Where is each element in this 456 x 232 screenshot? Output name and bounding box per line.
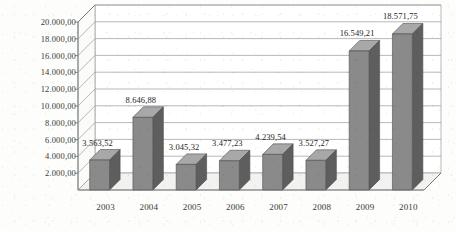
data-value-label: 8.646,88 xyxy=(126,95,157,105)
data-value-labels: 3.563,528.646,883.045,323.477,234.239,54… xyxy=(0,0,456,232)
data-value-label: 3.045,32 xyxy=(169,142,200,152)
data-value-label: 18.571,75 xyxy=(383,11,418,21)
data-value-label: 3.563,52 xyxy=(82,138,113,148)
data-value-label: 3.527,27 xyxy=(299,138,330,148)
bar-chart: 2.000,004.000,006.000,008.000,0010.000,0… xyxy=(0,0,456,232)
data-value-label: 16.549,21 xyxy=(340,28,375,38)
data-value-label: 4.239,54 xyxy=(255,132,286,142)
data-value-label: 3.477,23 xyxy=(212,138,243,148)
